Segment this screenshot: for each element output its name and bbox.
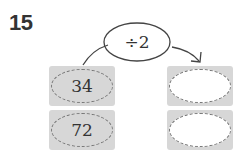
output-curve — [172, 47, 199, 61]
input-box-2: 72 — [49, 110, 115, 150]
input-box-1: 34 — [49, 66, 115, 106]
answer-field-2[interactable] — [169, 113, 231, 147]
input-value-1: 34 — [51, 69, 113, 103]
answer-box-1[interactable] — [167, 66, 233, 106]
answer-box-2[interactable] — [167, 110, 233, 150]
operation-label: ÷2 — [104, 23, 170, 61]
answer-field-1[interactable] — [169, 69, 231, 103]
input-value-2: 72 — [51, 113, 113, 147]
